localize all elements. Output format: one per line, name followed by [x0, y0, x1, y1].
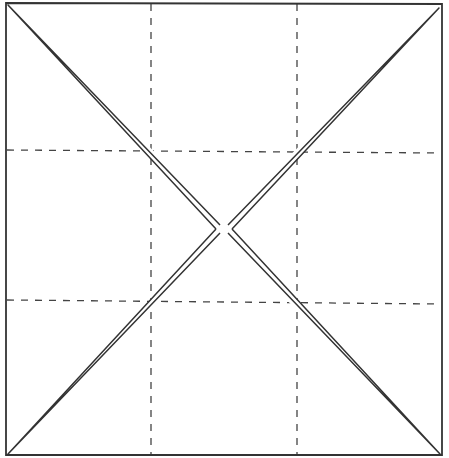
- grid-horizontal-1: [7, 150, 441, 153]
- grid-horizontal-2: [7, 300, 441, 304]
- fold-diagram: [0, 0, 449, 458]
- diagram-canvas: [0, 0, 449, 458]
